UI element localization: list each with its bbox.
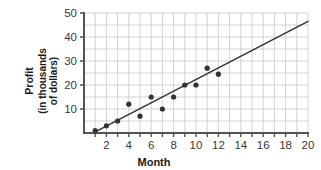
x-axis-tick-label: 10 <box>190 139 203 151</box>
y-axis-title-line-2: (in thousands <box>37 48 48 114</box>
data-point <box>149 94 154 99</box>
x-axis-tick-label: 16 <box>257 139 270 151</box>
y-axis-tick-label: 30 <box>64 55 77 67</box>
y-axis-tick-label: 10 <box>64 103 77 115</box>
data-point <box>115 118 120 123</box>
y-axis-title-line-3: of dollars) <box>48 57 59 105</box>
chart-canvas: 10203040502468101214161820MonthProfit(in… <box>0 0 321 170</box>
data-point <box>182 82 187 87</box>
x-axis-tick-label: 6 <box>148 139 154 151</box>
x-axis-tick-label: 18 <box>279 139 292 151</box>
y-axis-title-line-1: Profit <box>23 67 35 95</box>
data-point <box>104 123 109 128</box>
x-axis-tick-label: 14 <box>234 139 247 151</box>
y-axis-tick-label: 50 <box>64 7 77 19</box>
x-axis-tick-label: 12 <box>212 139 225 151</box>
data-point <box>137 114 142 119</box>
data-point <box>193 82 198 87</box>
data-point <box>171 94 176 99</box>
x-axis-tick-label: 8 <box>170 139 176 151</box>
x-axis-tick-label: 20 <box>302 139 315 151</box>
y-axis-tick-label: 20 <box>64 79 77 91</box>
data-point <box>205 66 210 71</box>
data-point <box>160 106 165 111</box>
x-axis-title: Month <box>138 156 171 168</box>
x-axis-tick-label: 4 <box>126 139 133 151</box>
y-axis-tick-label: 40 <box>64 31 77 43</box>
data-point <box>216 72 221 77</box>
x-axis-tick-label: 2 <box>103 139 109 151</box>
data-point <box>126 102 131 107</box>
profit-scatter-chart: 10203040502468101214161820MonthProfit(in… <box>0 0 321 170</box>
data-point <box>93 128 98 133</box>
